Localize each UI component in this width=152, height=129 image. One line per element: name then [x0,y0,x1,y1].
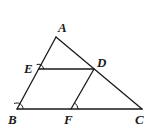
label-B: B [7,112,17,127]
label-A: A [57,20,67,35]
label-C: C [135,112,144,127]
angle-mark-F [75,103,79,109]
label-D: D [96,55,107,70]
label-F: F [63,112,73,127]
label-E: E [23,61,33,76]
geometry-diagram: A E D B F C [0,0,152,129]
segment-AB [17,37,56,109]
segment-AC [56,37,142,109]
